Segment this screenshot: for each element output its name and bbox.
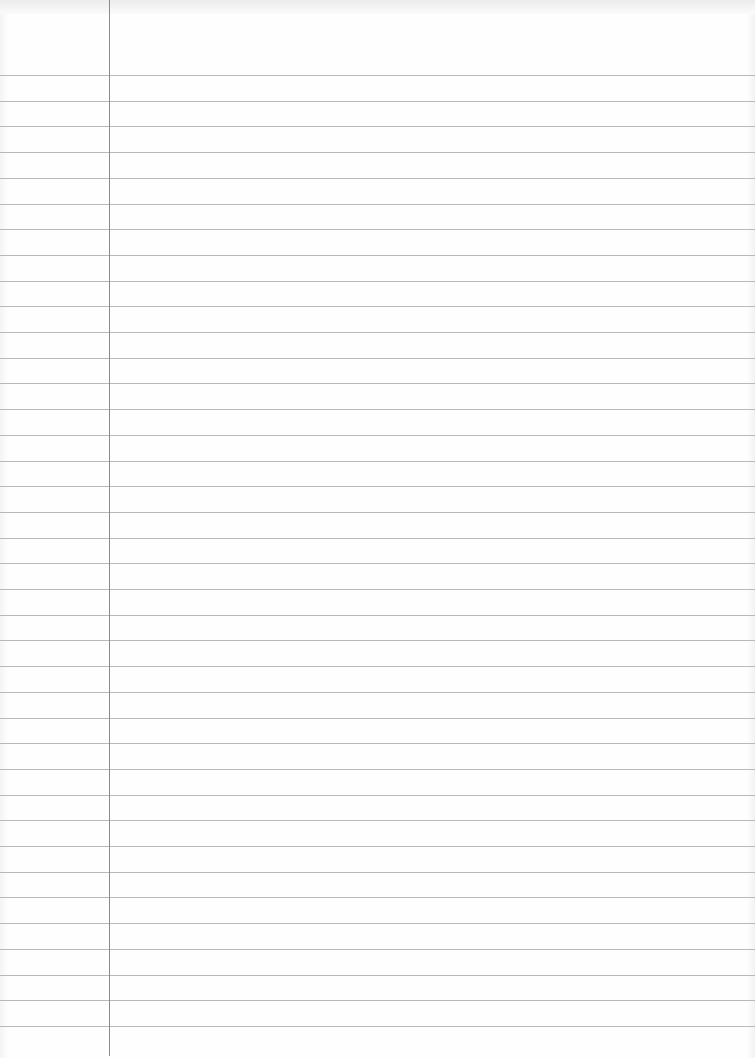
ruled-line xyxy=(0,923,755,924)
ruled-line xyxy=(0,204,755,205)
ruled-line xyxy=(0,101,755,102)
ruled-line xyxy=(0,666,755,667)
ruled-line xyxy=(0,332,755,333)
ruled-line xyxy=(0,795,755,796)
ruled-line xyxy=(0,75,755,76)
ruled-line xyxy=(0,692,755,693)
ruled-line xyxy=(0,512,755,513)
ruled-line xyxy=(0,152,755,153)
ruled-line xyxy=(0,949,755,950)
lined-paper-sheet xyxy=(0,0,755,1058)
ruled-line xyxy=(0,486,755,487)
ruled-line xyxy=(0,589,755,590)
ruled-line xyxy=(0,461,755,462)
ruled-line xyxy=(0,897,755,898)
ruled-line xyxy=(0,358,755,359)
ruled-line xyxy=(0,718,755,719)
ruled-line xyxy=(0,563,755,564)
ruled-line xyxy=(0,178,755,179)
ruled-line xyxy=(0,435,755,436)
ruled-line xyxy=(0,743,755,744)
ruled-line xyxy=(0,281,755,282)
ruled-line xyxy=(0,846,755,847)
top-edge-shadow xyxy=(0,0,755,14)
ruled-line xyxy=(0,1026,755,1027)
ruled-line xyxy=(0,229,755,230)
ruled-line xyxy=(0,1000,755,1001)
ruled-line xyxy=(0,872,755,873)
ruled-line xyxy=(0,126,755,127)
ruled-line xyxy=(0,538,755,539)
ruled-line xyxy=(0,306,755,307)
margin-line xyxy=(109,0,110,1056)
ruled-line xyxy=(0,975,755,976)
ruled-line xyxy=(0,615,755,616)
ruled-line xyxy=(0,820,755,821)
ruled-line xyxy=(0,255,755,256)
ruled-line xyxy=(0,769,755,770)
ruled-line xyxy=(0,640,755,641)
ruled-line xyxy=(0,409,755,410)
ruled-line xyxy=(0,383,755,384)
